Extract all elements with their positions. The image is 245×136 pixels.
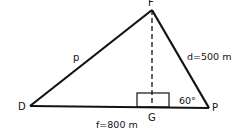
vertex-label-g: G [148, 112, 156, 123]
side-df [30, 10, 152, 106]
vertex-label-p: P [212, 102, 218, 113]
triangle-diagram: F D P G p d=500 m f=800 m 60° [0, 0, 245, 136]
vertex-label-f: F [148, 0, 154, 8]
vertex-label-d: D [18, 101, 26, 112]
side-label-d: d=500 m [187, 51, 231, 62]
angle-label-p: 60° [179, 95, 196, 106]
side-dp [30, 106, 209, 108]
side-label-p: p [73, 52, 79, 63]
side-label-f: f=800 m [96, 119, 138, 130]
right-angle-marker [137, 93, 169, 107]
